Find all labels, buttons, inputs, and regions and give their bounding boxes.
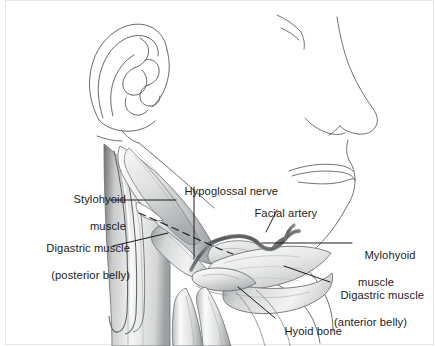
label-facial-artery: Facial artery: [248, 194, 317, 221]
label-line-1: Digastric muscle: [46, 242, 130, 254]
label-line-1: Stylohyoid: [73, 193, 126, 205]
label-digastric-muscle-anterior-belly: Digastric muscle (anterior belly): [334, 276, 434, 343]
label-line-2: (anterior belly): [334, 316, 434, 329]
label-line-1: Digastric muscle: [340, 289, 424, 301]
mastoid-contour: [97, 131, 139, 143]
face-profile-outline: [277, 15, 377, 206]
ear-auricle: [89, 24, 169, 131]
label-line-2: (posterior belly): [12, 269, 130, 282]
label-line-1: Mylohyoid: [364, 249, 415, 261]
label-digastric-muscle-posterior-belly: Digastric muscle (posterior belly): [12, 229, 130, 296]
label-line-1: Facial artery: [254, 207, 317, 219]
label-hyoid-bone: Hyoid bone: [278, 312, 342, 339]
label-line-1: Hyoid bone: [284, 325, 342, 337]
